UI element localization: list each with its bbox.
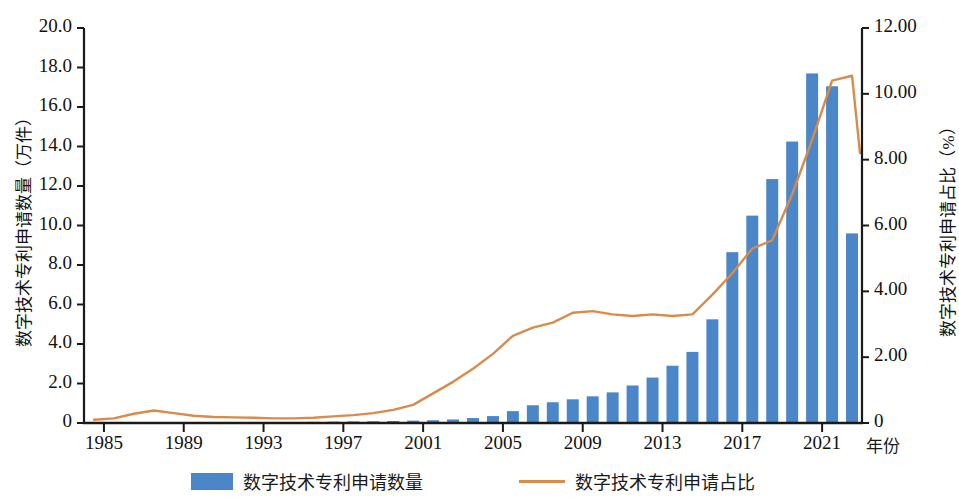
legend-entry-bar: 数字技术专利申请数量	[191, 468, 423, 494]
y-axis-left-tick-label: 4.0	[10, 331, 72, 353]
y-axis-right-tick-label: 10.00	[874, 81, 944, 103]
bar-2018	[766, 179, 778, 423]
y-axis-left-tick-label: 2.0	[10, 371, 72, 393]
x-axis-tick-label: 1993	[229, 432, 299, 454]
y-axis-left-tick-label: 0	[10, 410, 72, 432]
bar-2011	[627, 385, 639, 423]
y-axis-left-tick-label: 20.0	[10, 15, 72, 37]
bar-2007	[547, 402, 559, 423]
share-line	[94, 76, 860, 420]
y-axis-left-tick-label: 16.0	[10, 94, 72, 116]
x-axis-tick-label: 2021	[787, 432, 857, 454]
y-axis-right-tick-label: 12.00	[874, 15, 944, 37]
bar-2021	[826, 86, 838, 423]
bar-2022	[846, 233, 858, 423]
y-axis-left-tick-label: 6.0	[10, 292, 72, 314]
y-axis-left-tick-label: 12.0	[10, 173, 72, 195]
x-axis-tick-label: 2001	[388, 432, 458, 454]
bar-2009	[587, 396, 599, 423]
x-axis-tick-label: 1989	[149, 432, 219, 454]
x-axis-title: 年份	[866, 432, 900, 457]
x-axis-tick-label: 2009	[548, 432, 618, 454]
y-axis-left-tick-label: 14.0	[10, 134, 72, 156]
y-axis-right-tick-label: 4.00	[874, 278, 944, 300]
legend-bar-label: 数字技术专利申请数量	[243, 468, 423, 494]
legend-entry-line: 数字技术专利申请占比	[519, 468, 755, 494]
bar-2015	[706, 319, 718, 423]
bar-2013	[667, 366, 679, 423]
legend-bar-swatch-icon	[191, 473, 233, 490]
bar-2008	[567, 399, 579, 423]
bar-2014	[686, 352, 698, 423]
x-axis-tick-label: 2013	[628, 432, 698, 454]
chart-legend: 数字技术专利申请数量 数字技术专利申请占比	[0, 468, 945, 494]
bar-2012	[647, 378, 659, 423]
y-axis-right-tick-label: 2.00	[874, 344, 944, 366]
x-axis-tick-label: 1997	[308, 432, 378, 454]
y-axis-right-tick-label: 0	[874, 410, 944, 432]
x-axis-tick-label: 1985	[69, 432, 139, 454]
bar-2005	[507, 411, 519, 423]
y-axis-left-tick-label: 10.0	[10, 213, 72, 235]
x-axis-tick-label: 2017	[707, 432, 777, 454]
legend-line-label: 数字技术专利申请占比	[575, 468, 755, 494]
bar-2010	[607, 392, 619, 423]
y-axis-right-tick-label: 6.00	[874, 213, 944, 235]
x-axis-tick-label: 2005	[468, 432, 538, 454]
y-axis-right-tick-label: 8.00	[874, 147, 944, 169]
y-axis-left-tick-label: 8.0	[10, 252, 72, 274]
bar-2006	[527, 405, 539, 423]
legend-line-swatch-icon	[519, 480, 565, 483]
y-axis-left-tick-label: 18.0	[10, 55, 72, 77]
